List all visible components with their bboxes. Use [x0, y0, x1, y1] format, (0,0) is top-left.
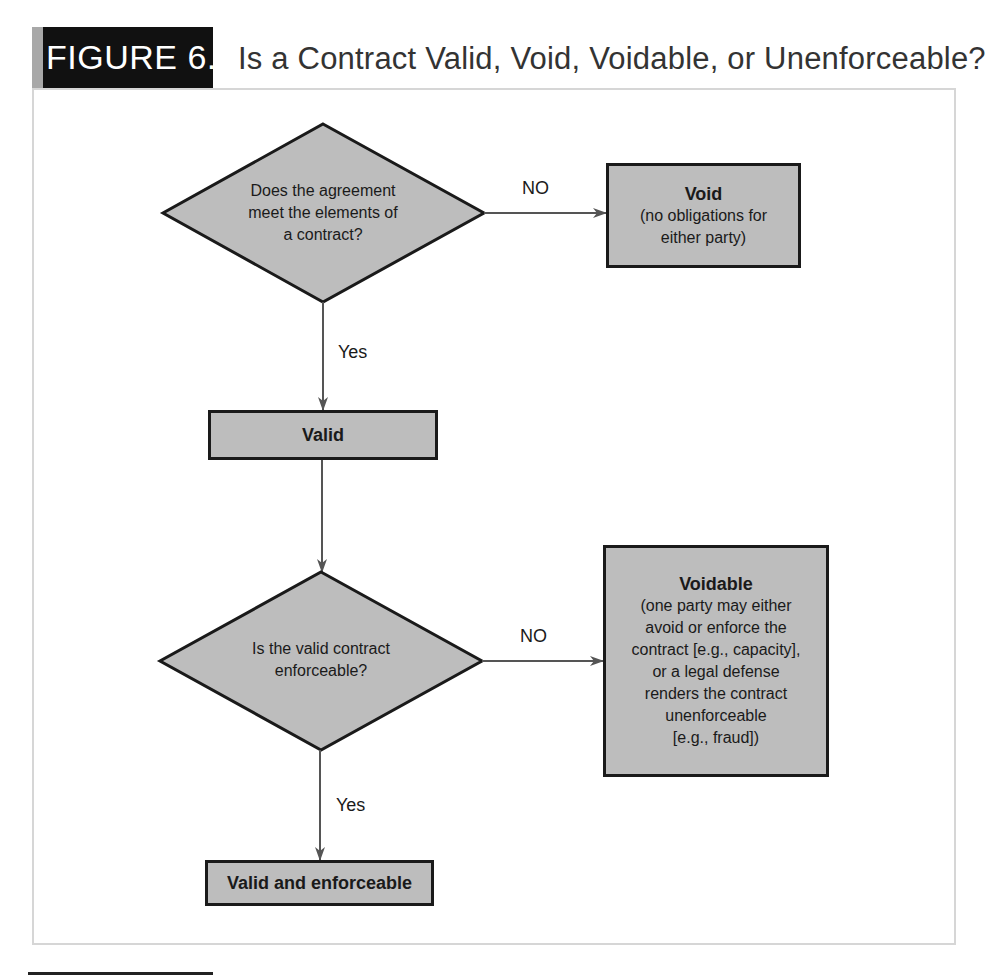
edge-label-q1-yes: Yes — [338, 342, 367, 363]
outcome-voidable-heading: Voidable — [679, 573, 753, 595]
footer-rule — [28, 972, 213, 975]
outcome-voidable-line: [e.g., fraud]) — [673, 727, 759, 749]
process-valid-heading: Valid — [302, 424, 344, 446]
outcome-voidable: Voidable (one party may either avoid or … — [603, 545, 829, 777]
decision-line: meet the elements of — [223, 202, 423, 224]
decision-line: Is the valid contract — [221, 638, 421, 660]
outcome-valid-enforceable-heading: Valid and enforceable — [227, 872, 412, 894]
edge-label-q1-no: NO — [522, 178, 549, 199]
outcome-voidable-line: renders the contract — [645, 683, 787, 705]
outcome-voidable-line: unenforceable — [665, 705, 766, 727]
outcome-void-line: either party) — [661, 227, 746, 249]
outcome-valid-enforceable: Valid and enforceable — [205, 860, 434, 906]
outcome-void: Void (no obligations for either party) — [606, 163, 801, 268]
edge-label-q2-no: NO — [520, 626, 547, 647]
decision-line: enforceable? — [221, 660, 421, 682]
process-valid: Valid — [208, 410, 438, 460]
outcome-voidable-line: avoid or enforce the — [645, 617, 786, 639]
outcome-voidable-line: or a legal defense — [652, 661, 779, 683]
outcome-voidable-line: (one party may either — [640, 595, 791, 617]
outcome-void-line: (no obligations for — [640, 205, 767, 227]
edge-label-q2-yes: Yes — [336, 795, 365, 816]
decision-line: a contract? — [223, 224, 423, 246]
outcome-void-heading: Void — [685, 183, 723, 205]
decision-text-elements: Does the agreement meet the elements of … — [223, 180, 423, 246]
decision-line: Does the agreement — [223, 180, 423, 202]
outcome-voidable-line: contract [e.g., capacity], — [632, 639, 801, 661]
decision-text-enforceable: Is the valid contract enforceable? — [221, 638, 421, 682]
